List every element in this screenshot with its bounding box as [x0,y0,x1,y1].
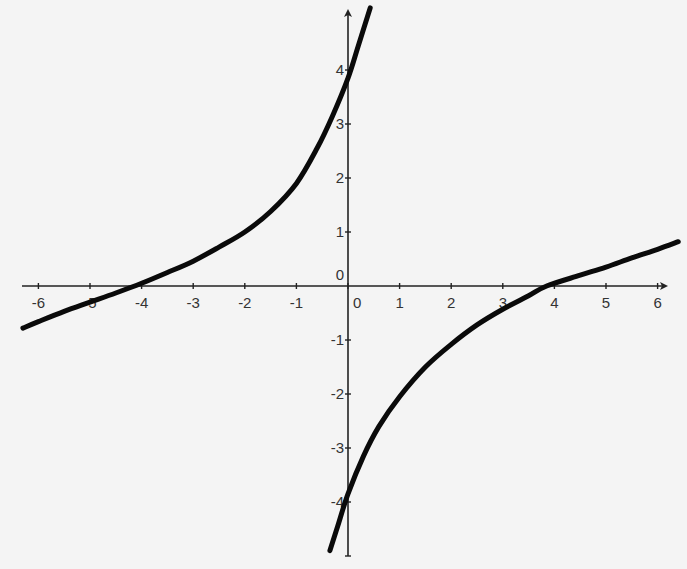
y-tick-label: -2 [331,385,344,402]
y-tick-label: -1 [331,331,344,348]
x-tick-label: -6 [32,294,45,311]
curves [23,8,678,551]
x-axis: -6-5-4-3-2-10123456 [22,282,668,311]
x-tick-label: -4 [135,294,148,311]
x-tick-label: 0 [353,294,361,311]
curve-branch-lower-right [330,242,678,551]
curve-branch-upper-left [23,8,370,328]
y-tick-label: 1 [336,223,344,240]
x-tick-label: -3 [187,294,200,311]
x-tick-label: 1 [395,294,403,311]
y-tick-label: 0 [336,266,344,283]
y-tick-label: -3 [331,439,344,456]
x-tick-label: -2 [238,294,251,311]
y-tick-label: 4 [336,61,344,78]
x-tick-label: 4 [550,294,558,311]
y-tick-label: 3 [336,115,344,132]
x-tick-label: 6 [653,294,661,311]
y-tick-label: 2 [336,169,344,186]
x-tick-label: 2 [447,294,455,311]
hyperbola-chart: -6-5-4-3-2-10123456 -4-3-2-101234 [0,0,687,569]
x-tick-label: 5 [602,294,610,311]
x-tick-label: -1 [290,294,303,311]
